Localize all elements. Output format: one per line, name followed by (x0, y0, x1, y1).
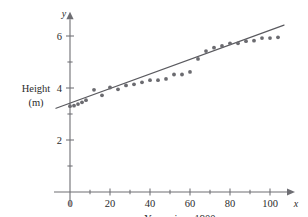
data-point (132, 82, 136, 86)
data-point (148, 78, 152, 82)
data-point (84, 98, 88, 102)
data-point (92, 88, 96, 92)
data-point (188, 70, 192, 74)
y-tick-label: 6 (57, 31, 62, 42)
regression-line (56, 25, 284, 108)
data-point (100, 93, 104, 97)
x-axis-tick-labels: 020406080100 (67, 198, 278, 209)
data-point (80, 100, 84, 104)
data-point (124, 84, 128, 88)
data-point (68, 104, 72, 108)
data-point (228, 41, 232, 45)
data-point (180, 73, 184, 77)
y-axis-tick-labels: 246 (57, 31, 63, 146)
data-point (156, 78, 160, 82)
pole-vault-scatter-figure: 020406080100 x 246 y Height (m) Years si… (0, 0, 308, 217)
data-point (140, 80, 144, 84)
y-axis-title-line1: Height (22, 83, 51, 94)
data-point (76, 102, 80, 106)
data-point (108, 86, 112, 90)
x-axis-arrow-icon (287, 188, 295, 195)
x-tick-label: 40 (145, 198, 156, 209)
y-axis-variable-label: y (61, 8, 67, 19)
data-point (212, 46, 216, 50)
data-point (164, 77, 168, 81)
data-point (172, 73, 176, 77)
data-point-group (68, 35, 280, 108)
x-axis-title: Years since 1900 (144, 213, 215, 217)
data-point (252, 39, 256, 43)
data-point (260, 36, 264, 40)
data-point (276, 35, 280, 39)
y-tick-label: 2 (57, 135, 62, 146)
x-tick-label: 60 (185, 198, 196, 209)
x-tick-label: 100 (262, 198, 278, 209)
x-axis-variable-label: x (293, 198, 299, 209)
scatter-plot-svg: 020406080100 x 246 y Height (m) Years si… (0, 0, 308, 217)
data-point (72, 104, 76, 108)
data-point (268, 36, 272, 40)
data-point (204, 49, 208, 53)
data-point (116, 87, 120, 91)
y-axis-title-line2: (m) (28, 97, 44, 109)
x-tick-label: 80 (225, 198, 236, 209)
data-point (236, 41, 240, 45)
y-tick-label: 4 (57, 83, 63, 94)
x-tick-label: 20 (105, 198, 116, 209)
data-point (244, 39, 248, 43)
data-point (196, 57, 200, 61)
y-axis-arrow-icon (66, 12, 73, 20)
x-axis: 020406080100 x (54, 188, 299, 209)
data-point (220, 44, 224, 48)
